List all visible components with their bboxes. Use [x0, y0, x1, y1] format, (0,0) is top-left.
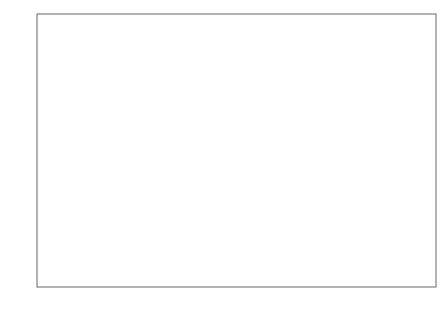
ber-chart — [0, 0, 448, 312]
plot-frame — [37, 14, 436, 287]
